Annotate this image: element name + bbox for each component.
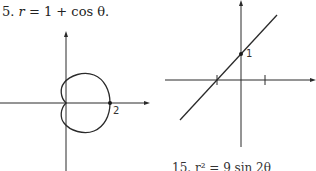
graph-line [180, 15, 277, 120]
right-point-label: 1 [246, 48, 252, 59]
right-y-axis-arrow-icon [239, 0, 243, 6]
left-x-axis-arrow-icon [144, 101, 150, 105]
cardioid-plot [0, 31, 150, 171]
left-point-label: 2 [113, 105, 119, 116]
right-point [239, 52, 243, 56]
cut-off-next-problem: 15. r² = 9 sin 2θ [172, 161, 271, 171]
right-x-axis-arrow-icon [310, 78, 316, 82]
figures [0, 0, 316, 171]
left-y-axis-arrow-icon [64, 31, 68, 37]
line-plot [165, 0, 316, 147]
left-point [108, 101, 112, 105]
